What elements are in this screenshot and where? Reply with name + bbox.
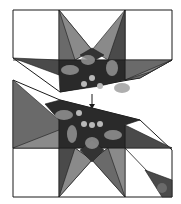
arrow-down-icon: [89, 94, 95, 109]
top-piece: [13, 10, 172, 93]
quilt-block-diagram: [0, 0, 181, 204]
